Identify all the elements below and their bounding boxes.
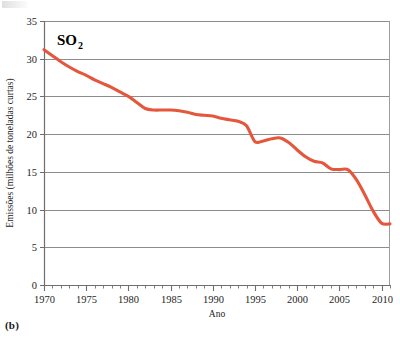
x-tick-label: 1975 bbox=[76, 294, 97, 305]
x-tick-label: 2005 bbox=[329, 294, 350, 305]
y-tick-label: 35 bbox=[27, 16, 38, 27]
panel-label: (b) bbox=[5, 319, 19, 331]
x-tick-label: 1980 bbox=[118, 294, 139, 305]
series-title: SO bbox=[57, 32, 77, 48]
y-tick-label: 30 bbox=[27, 54, 38, 65]
x-tick-label: 1985 bbox=[161, 294, 182, 305]
y-axis-ticks bbox=[40, 22, 44, 286]
plot-background bbox=[44, 21, 390, 285]
y-tick-label: 5 bbox=[32, 242, 37, 253]
y-axis-title: Emissões (milhões de toneladas curtas) bbox=[5, 78, 16, 227]
x-tick-label: 2010 bbox=[372, 294, 393, 305]
x-tick-label: 2000 bbox=[287, 294, 308, 305]
x-axis-tick-labels: 197019751980198519901995200020052010 bbox=[34, 294, 393, 305]
y-tick-label: 15 bbox=[27, 167, 38, 178]
y-tick-label: 0 bbox=[32, 280, 37, 291]
y-tick-label: 20 bbox=[27, 129, 38, 140]
so2-emissions-line-chart: 05101520253035 1970197519801985199019952… bbox=[0, 0, 400, 339]
x-tick-label: 1990 bbox=[203, 294, 224, 305]
figure-panel: 05101520253035 1970197519801985199019952… bbox=[0, 0, 400, 339]
series-title-subscript: 2 bbox=[78, 40, 83, 51]
x-tick-label: 1970 bbox=[34, 294, 55, 305]
y-tick-label: 25 bbox=[27, 91, 38, 102]
y-axis-tick-labels: 05101520253035 bbox=[27, 16, 38, 291]
x-axis-title: Ano bbox=[209, 309, 226, 319]
y-tick-label: 10 bbox=[27, 205, 38, 216]
x-tick-label: 1995 bbox=[245, 294, 266, 305]
